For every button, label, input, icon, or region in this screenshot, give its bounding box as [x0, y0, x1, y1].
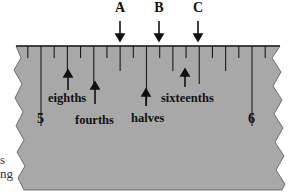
- marker-a-label: A: [115, 0, 125, 16]
- eighths-label: eighths: [48, 91, 86, 106]
- whole-number-6: 6: [248, 111, 255, 127]
- fourths-label: fourths: [75, 113, 114, 128]
- ruler-figure: [0, 0, 291, 193]
- sixteenths-label: sixteenths: [161, 91, 214, 106]
- halves-label: halves: [131, 111, 164, 126]
- side-text-2: ng: [0, 166, 13, 182]
- whole-number-5: 5: [37, 111, 44, 127]
- marker-b-label: B: [154, 0, 163, 16]
- marker-c-label: C: [193, 0, 203, 16]
